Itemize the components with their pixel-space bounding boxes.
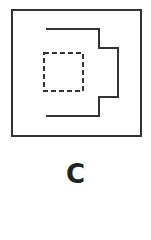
figure-label: C — [0, 160, 151, 187]
dashed-square — [44, 53, 83, 91]
